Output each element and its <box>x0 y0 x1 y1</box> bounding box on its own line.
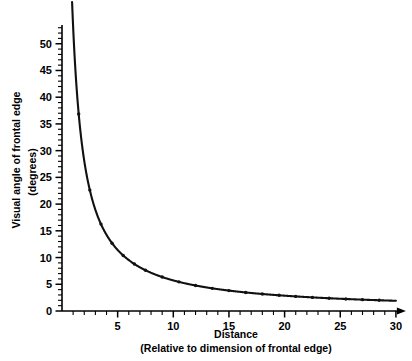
data-point-marker <box>99 222 102 225</box>
data-point-marker <box>160 275 163 278</box>
data-point-marker <box>122 254 125 257</box>
data-point-marker <box>227 289 230 292</box>
chart-container: 05101520253035404550 51015202530 Distanc… <box>0 0 412 361</box>
x-axis-title: Distance <box>214 328 258 340</box>
data-point-marker <box>261 292 264 295</box>
y-tick-label: 15 <box>40 225 52 237</box>
y-tick-label: 50 <box>40 38 52 50</box>
data-point-marker <box>177 280 180 283</box>
data-point-marker <box>110 242 113 245</box>
data-point-marker <box>361 298 364 301</box>
y-tick-label: 10 <box>40 252 52 264</box>
x-tick-label: 5 <box>115 320 121 332</box>
x-axis-subtitle: (Relative to dimension of frontal edge) <box>140 342 331 354</box>
y-tick-label: 20 <box>40 198 52 210</box>
data-point-marker <box>378 299 381 302</box>
x-tick-label: 10 <box>167 320 179 332</box>
data-point-marker <box>194 284 197 287</box>
data-point-marker <box>311 296 314 299</box>
visual-angle-line-chart: 05101520253035404550 51015202530 Distanc… <box>0 0 412 361</box>
data-point-marker <box>327 297 330 300</box>
y-axis-subtitle: (degrees) <box>26 148 38 195</box>
data-point-marker <box>344 297 347 300</box>
y-tick-label: 45 <box>40 64 52 76</box>
data-point-marker <box>277 294 280 297</box>
data-point-marker <box>294 295 297 298</box>
data-point-marker <box>244 291 247 294</box>
y-tick-label: 0 <box>46 305 52 317</box>
y-axis-title: Visual angle of frontal edge <box>10 91 22 228</box>
data-point-marker <box>77 112 80 115</box>
y-tick-label: 35 <box>40 118 52 130</box>
data-point-marker <box>211 287 214 290</box>
data-point-marker <box>144 269 147 272</box>
x-tick-label: 25 <box>334 320 346 332</box>
y-tick-label: 40 <box>40 91 52 103</box>
y-tick-label: 30 <box>40 145 52 157</box>
data-point-marker <box>133 262 136 265</box>
data-point-marker <box>88 188 91 191</box>
x-tick-label: 20 <box>278 320 290 332</box>
y-tick-label: 25 <box>40 171 52 183</box>
y-tick-label: 5 <box>46 278 52 290</box>
x-tick-label: 30 <box>390 320 402 332</box>
